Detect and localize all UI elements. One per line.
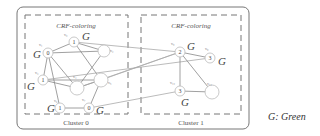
- cluster-1-label: Cluster 1: [178, 119, 204, 127]
- node-v2: [98, 45, 110, 57]
- svg-text:G: G: [33, 48, 41, 60]
- svg-text:1: 1: [59, 105, 62, 111]
- node-v4: [70, 81, 84, 95]
- node-v5: [94, 73, 108, 87]
- svg-text:G: G: [47, 102, 55, 114]
- svg-text:G: G: [187, 40, 195, 52]
- svg-text:0: 0: [47, 50, 50, 56]
- node-v11: [205, 85, 219, 99]
- svg-text:0: 0: [88, 105, 91, 111]
- svg-text:3: 3: [209, 55, 212, 61]
- svg-text:v₅: v₅: [108, 80, 112, 85]
- color-labels: G G G G G G G G: [27, 30, 226, 116]
- cluster-0-label: Cluster 0: [63, 119, 89, 127]
- svg-text:1: 1: [42, 77, 45, 83]
- svg-text:v₄: v₄: [73, 74, 77, 79]
- svg-text:G: G: [218, 55, 226, 67]
- svg-text:1: 1: [73, 39, 76, 45]
- svg-text:G: G: [27, 80, 35, 92]
- svg-text:v₁₀: v₁₀: [170, 80, 175, 85]
- node-names: v₁ v₀ v₂ v₃ v₄ v₅ v₆ v₇ v₈ v₉ v₁₀ v₁₁: [35, 32, 212, 103]
- svg-text:v₉: v₉: [205, 46, 209, 51]
- svg-text:G: G: [181, 96, 189, 108]
- svg-text:v₂: v₂: [110, 48, 114, 53]
- svg-text:v₀: v₀: [64, 32, 68, 37]
- legend: G: Green: [268, 111, 306, 122]
- svg-text:v₁: v₁: [39, 42, 43, 47]
- cluster-1-title: CRF-coloring: [171, 22, 211, 30]
- svg-text:v₁₁: v₁₁: [207, 81, 212, 86]
- svg-text:3: 3: [179, 88, 182, 94]
- svg-text:v₇: v₇: [82, 97, 86, 102]
- svg-text:2: 2: [179, 49, 182, 55]
- cluster-0-title: CRF-coloring: [56, 22, 96, 30]
- svg-text:v₈: v₈: [171, 41, 175, 46]
- svg-text:G: G: [96, 104, 104, 116]
- svg-text:G: G: [82, 30, 90, 42]
- svg-text:v₃: v₃: [35, 70, 39, 75]
